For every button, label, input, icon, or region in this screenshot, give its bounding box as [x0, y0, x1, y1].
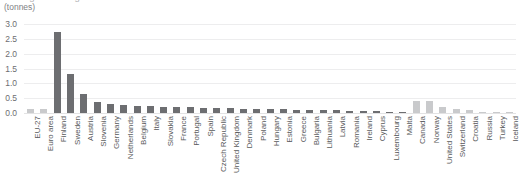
x-axis-tick-label: Netherlands — [127, 116, 135, 159]
bar[interactable] — [187, 107, 194, 113]
y-axis-tick-label: 0.5 — [0, 94, 17, 103]
x-axis-tick-label: United States — [446, 116, 454, 164]
bar[interactable] — [306, 110, 313, 113]
bar[interactable] — [413, 101, 420, 113]
x-axis-tick-label: Canada — [419, 116, 427, 144]
y-axis-tick-label: 3.0 — [0, 20, 17, 29]
bar-chart: Average annual generation of radioactive… — [0, 0, 520, 190]
x-axis-labels: EU-27Euro areaFinlandSwedenAustriaSloven… — [24, 116, 516, 190]
bar[interactable] — [373, 111, 380, 113]
x-axis-tick-label: Russia — [486, 116, 494, 140]
bar[interactable] — [333, 110, 340, 113]
bar[interactable] — [399, 112, 406, 114]
y-axis-tick-label: 0.0 — [0, 109, 17, 118]
bar[interactable] — [386, 112, 393, 114]
bar[interactable] — [439, 107, 446, 113]
bar[interactable] — [506, 112, 513, 114]
bar[interactable] — [67, 74, 74, 113]
gridline — [24, 113, 516, 114]
x-axis-tick-label: Belgium — [140, 116, 148, 145]
x-axis-tick-label: Finland — [60, 116, 68, 142]
x-axis-tick-label: Turkey — [499, 116, 507, 140]
x-axis-tick-label: Latvia — [339, 116, 347, 137]
bar[interactable] — [346, 111, 353, 113]
x-axis-tick-label: Hungary — [273, 116, 281, 146]
x-axis-tick-label: Malta — [406, 116, 414, 136]
x-axis-tick-label: United Kingdom — [233, 116, 241, 173]
x-axis-tick-label: Italy — [153, 116, 161, 131]
bar[interactable] — [200, 108, 207, 113]
y-axis-tick-label: 2.5 — [0, 35, 17, 44]
bar[interactable] — [80, 94, 87, 113]
x-axis-tick-label: Ireland — [366, 116, 374, 140]
bar[interactable] — [173, 107, 180, 113]
bar[interactable] — [280, 109, 287, 113]
bar[interactable] — [27, 109, 34, 113]
bar[interactable] — [94, 102, 101, 113]
y-axis-unit-label: (tonnes) — [4, 2, 35, 12]
x-axis-tick-label: Luxembourg — [393, 116, 401, 160]
bar[interactable] — [293, 110, 300, 113]
bar[interactable] — [40, 109, 47, 113]
bar[interactable] — [479, 112, 486, 114]
bar[interactable] — [213, 108, 220, 113]
x-axis-tick-label: Estonia — [286, 116, 294, 143]
bar[interactable] — [466, 110, 473, 113]
bar[interactable] — [54, 32, 61, 113]
x-axis-tick-label: Euro area — [47, 116, 55, 151]
x-axis-tick-label: Bulgaria — [313, 116, 321, 145]
x-axis-tick-label: Poland — [260, 116, 268, 141]
bar[interactable] — [360, 111, 367, 113]
x-axis-tick-label: Spain — [207, 116, 215, 136]
x-axis-tick-label: Iceland — [512, 116, 520, 142]
x-axis-tick-label: Czech Republic — [220, 116, 228, 172]
bar[interactable] — [227, 108, 234, 113]
x-axis-tick-label: Denmark — [246, 116, 254, 148]
x-axis-tick-label: Germany — [113, 116, 121, 149]
y-axis-tick-label: 1.5 — [0, 65, 17, 74]
bar[interactable] — [453, 109, 460, 113]
x-axis-tick-label: Slovenia — [100, 116, 108, 147]
bar[interactable] — [160, 107, 167, 113]
bar[interactable] — [134, 106, 141, 113]
plot-area: 0.00.51.01.52.02.53.0 — [24, 24, 516, 113]
x-axis-tick-label: Switzerland — [459, 116, 467, 157]
x-axis-tick-label: France — [180, 116, 188, 141]
x-axis-tick-label: EU-27 — [34, 116, 42, 139]
x-axis-tick-label: Sweden — [74, 116, 82, 145]
x-axis-tick-label: Slovakia — [167, 116, 175, 146]
bar-series — [24, 24, 516, 113]
x-axis-tick-label: Lithuania — [326, 116, 334, 148]
x-axis-tick-label: Austria — [87, 116, 95, 141]
x-axis-tick-label: Croatia — [472, 116, 480, 142]
bar[interactable] — [107, 104, 114, 113]
bar[interactable] — [267, 109, 274, 113]
bar[interactable] — [120, 105, 127, 113]
y-axis-tick-label: 2.0 — [0, 50, 17, 59]
bar[interactable] — [426, 101, 433, 113]
bar[interactable] — [147, 106, 154, 113]
bar[interactable] — [493, 112, 500, 114]
x-axis-tick-label: Cyprus — [379, 116, 387, 141]
bar[interactable] — [320, 110, 327, 113]
x-axis-tick-label: Greece — [300, 116, 308, 142]
x-axis-tick-label: Romania — [353, 116, 361, 148]
bar[interactable] — [253, 109, 260, 113]
x-axis-tick-label: Norway — [433, 116, 441, 143]
y-axis-tick-label: 1.0 — [0, 79, 17, 88]
bar[interactable] — [240, 109, 247, 113]
x-axis-tick-label: Portugal — [193, 116, 201, 146]
